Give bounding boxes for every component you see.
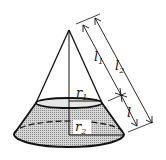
label-l1: l1 <box>94 49 103 66</box>
label-l: l <box>127 105 131 120</box>
label-r1: r1 <box>76 85 87 102</box>
arrowhead-icon <box>115 88 127 102</box>
cone-diagram: r1 r2 l1 l2 l <box>0 0 166 160</box>
cone-left-edge <box>36 30 69 103</box>
label-l2: l2 <box>115 58 124 75</box>
